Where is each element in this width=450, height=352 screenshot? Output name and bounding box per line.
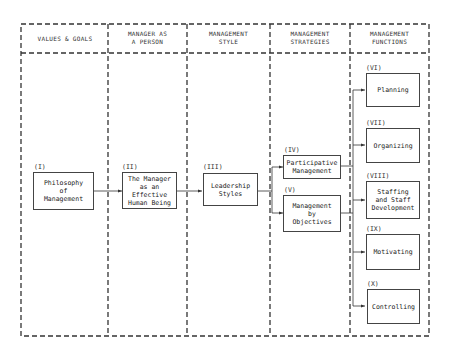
node-number-v: (V) [284, 186, 296, 194]
node-number-iv: (IV) [284, 146, 300, 154]
node-staffing-and-staff-development: Staffing and Staff Development [366, 181, 420, 219]
column-header-values-goals: VALUES & GOALS [22, 35, 108, 43]
node-number-vii: (VII) [366, 119, 386, 127]
column-header-manager-as-person: MANAGER AS A PERSON [108, 30, 187, 45]
column-header-management-functions: MANAGEMENT FUNCTIONS [350, 30, 429, 45]
node-leadership-styles: Leadership Styles [203, 173, 258, 206]
node-philosophy-of-management: Philosophy of Management [33, 172, 94, 210]
node-management-by-objectives: Management by Objectives [283, 195, 341, 232]
node-controlling: Controlling [367, 289, 420, 324]
node-participative-management: Participative Management [283, 155, 341, 179]
node-number-i: (I) [34, 163, 46, 171]
node-number-x: (X) [367, 280, 379, 288]
node-number-ix: (IX) [366, 225, 382, 233]
node-motivating: Motivating [366, 234, 420, 270]
node-number-iii: (III) [203, 163, 223, 171]
node-organizing: Organizing [366, 128, 420, 163]
column-header-management-strategies: MANAGEMENT STRATEGIES [270, 30, 350, 45]
node-number-ii: (II) [122, 163, 138, 171]
node-manager-effective-human-being: The Manager as an Effective Human Being [122, 172, 177, 209]
node-number-viii: (VIII) [366, 172, 389, 180]
node-number-vi: (VI) [366, 64, 382, 72]
column-header-management-style: MANAGEMENT STYLE [187, 30, 270, 45]
node-planning: Planning [366, 73, 420, 107]
